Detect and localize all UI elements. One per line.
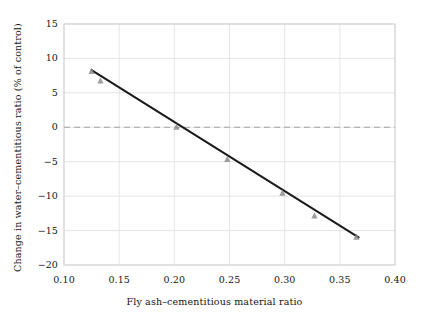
x-tick-label: 0.15 (99, 274, 139, 285)
trend-line (92, 70, 359, 237)
x-tick-label: 0.40 (375, 274, 415, 285)
x-tick-label: 0.30 (265, 274, 305, 285)
x-tick-label: 0.25 (210, 274, 250, 285)
y-tick-label: 5 (28, 87, 58, 98)
x-axis-title: Fly ash–cementitious material ratio (0, 296, 429, 307)
y-tick-label: −20 (28, 259, 58, 270)
x-tick-label: 0.10 (44, 274, 84, 285)
y-tick-label: −10 (28, 190, 58, 201)
y-tick-label: 10 (28, 52, 58, 63)
y-tick-label: −15 (28, 225, 58, 236)
x-tick-label: 0.20 (154, 274, 194, 285)
y-tick-label: 15 (28, 18, 58, 29)
chart-figure: 151050−5−10−15−20 0.100.150.200.250.300.… (0, 0, 429, 324)
x-tick-label: 0.35 (320, 274, 360, 285)
y-tick-label: 0 (28, 121, 58, 132)
y-tick-label: −5 (28, 156, 58, 167)
y-axis-title: Change in water–cementitious ratio (% of… (12, 23, 23, 272)
